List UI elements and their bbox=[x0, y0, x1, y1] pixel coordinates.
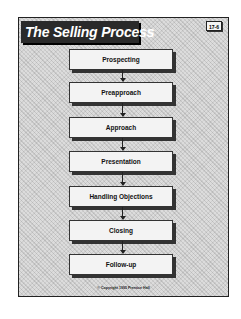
step-follow-up: Follow-up bbox=[69, 254, 173, 275]
step-approach: Approach bbox=[69, 117, 173, 138]
arrow-down-icon bbox=[122, 70, 123, 81]
step-presentation: Presentation bbox=[69, 151, 173, 172]
copyright-notice: © Copyright 1995 Prentice Hall bbox=[19, 286, 228, 290]
step-closing: Closing bbox=[69, 220, 173, 241]
slide-number-badge: 17-6 bbox=[206, 21, 222, 31]
arrow-down-icon bbox=[122, 103, 123, 116]
arrow-down-icon bbox=[122, 138, 123, 150]
slide-frame: The Selling Process 17-6 Prospecting Pre… bbox=[18, 17, 229, 297]
step-handling-objections: Handling Objections bbox=[69, 186, 173, 207]
arrow-down-icon bbox=[122, 207, 123, 219]
step-preapproach: Preapproach bbox=[69, 82, 173, 103]
arrow-down-icon bbox=[122, 241, 123, 253]
slide-title: The Selling Process bbox=[21, 21, 139, 43]
step-prospecting: Prospecting bbox=[69, 49, 173, 70]
arrow-down-icon bbox=[122, 172, 123, 185]
